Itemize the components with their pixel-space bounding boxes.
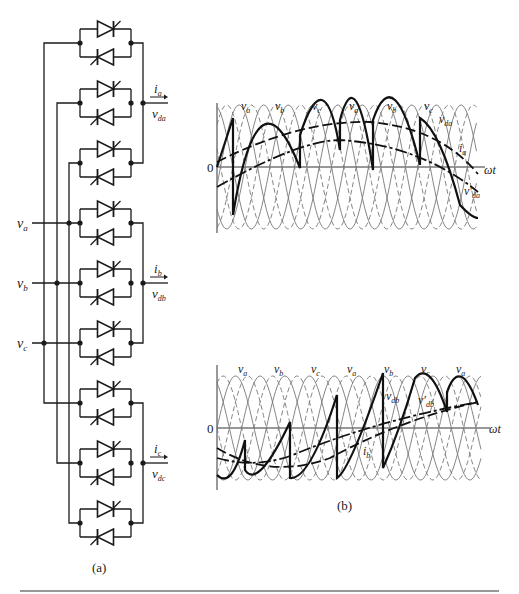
thyristor-gate bbox=[114, 261, 121, 268]
junction-dot bbox=[140, 460, 145, 465]
junction-dot bbox=[41, 340, 46, 345]
junction-dot bbox=[66, 220, 71, 225]
zero-label-top: 0 bbox=[207, 160, 214, 175]
phase-label: vc bbox=[424, 99, 433, 115]
thyristor-triangle-icon bbox=[98, 109, 114, 125]
thyristor-gate bbox=[91, 118, 98, 125]
phase-label: va bbox=[347, 362, 356, 378]
thyristor-gate bbox=[91, 358, 98, 365]
thyristor-triangle-icon bbox=[98, 441, 114, 457]
thyristor-triangle-icon bbox=[98, 289, 114, 305]
thyristor-triangle-icon bbox=[98, 409, 114, 425]
thyristor-gate bbox=[114, 81, 121, 88]
output-current-label-ic: ic bbox=[154, 441, 162, 458]
fundamental-vdb-prime bbox=[217, 402, 478, 463]
thyristor-pair bbox=[77, 261, 133, 305]
thyristor-triangle-icon bbox=[98, 201, 114, 217]
ib-label: ib bbox=[363, 444, 370, 460]
thyristor-gate bbox=[114, 321, 121, 328]
junction-dot bbox=[128, 280, 133, 285]
thyristor-gate bbox=[114, 141, 121, 148]
thyristor-gate bbox=[91, 178, 98, 185]
phase-label: vb bbox=[275, 99, 284, 115]
thyristor-gate bbox=[114, 441, 121, 448]
output-bus bbox=[131, 403, 168, 523]
junction-dot bbox=[128, 460, 133, 465]
arrowhead-icon bbox=[164, 275, 168, 280]
phase-label: vc bbox=[311, 362, 320, 378]
thyristor-triangle-icon bbox=[98, 141, 114, 157]
thyristor-pair bbox=[77, 381, 133, 425]
thyristor-triangle-icon bbox=[98, 529, 114, 545]
phase-label: vb bbox=[384, 362, 393, 378]
thyristor-gate bbox=[114, 201, 121, 208]
thyristor-triangle-icon bbox=[98, 469, 114, 485]
input-buses bbox=[32, 43, 80, 523]
junction-dot bbox=[140, 100, 145, 105]
input-label-va: va bbox=[17, 216, 28, 233]
axis-label-wt-bottom: ωt bbox=[489, 422, 501, 436]
ia-label: ia bbox=[459, 141, 466, 157]
input-label-vb: vb bbox=[17, 276, 28, 293]
thyristor-gate bbox=[114, 381, 121, 388]
phase-label: vc bbox=[421, 362, 430, 378]
thyristor-triangle-icon bbox=[98, 261, 114, 277]
thyristor-triangle-icon bbox=[98, 169, 114, 185]
thyristor-triangle-icon bbox=[98, 229, 114, 245]
thyristor-triangle-icon bbox=[98, 501, 114, 517]
axis-label-wt-top: ωt bbox=[484, 163, 496, 177]
output-bus bbox=[131, 43, 168, 163]
output-voltage-label-vdc: vdc bbox=[152, 466, 166, 483]
thyristor-pair bbox=[77, 141, 133, 185]
thyristor-triangle-icon bbox=[98, 49, 114, 65]
phase-label: vc bbox=[312, 99, 321, 115]
thyristor-gate bbox=[114, 21, 121, 28]
phase-label: va bbox=[238, 362, 247, 378]
phase-label: va bbox=[456, 362, 465, 378]
phase-label: va bbox=[241, 99, 250, 115]
junction-dot bbox=[140, 280, 145, 285]
thyristor-gate bbox=[91, 298, 98, 305]
cycloconverter-figure: va vb vc ia vda ib vdb ic vdc (a) 0 ωt v… bbox=[0, 0, 519, 594]
thyristor-gate bbox=[91, 478, 98, 485]
waveform-output-a bbox=[217, 97, 485, 233]
waveform-output-b bbox=[217, 365, 490, 490]
output-bus bbox=[131, 223, 168, 343]
thyristor-pair bbox=[77, 501, 133, 545]
thyristor-pair bbox=[77, 201, 133, 245]
phase-label: vb bbox=[274, 362, 283, 378]
thyristor-triangle-icon bbox=[98, 321, 114, 337]
output-voltage-vda bbox=[233, 100, 340, 215]
zero-label-bottom: 0 bbox=[207, 421, 214, 436]
arrowhead-icon bbox=[164, 95, 168, 100]
output-voltage-label-vdb: vdb bbox=[152, 286, 166, 303]
junction-dot bbox=[54, 280, 59, 285]
thyristor-gate bbox=[91, 238, 98, 245]
vda-label: vda bbox=[439, 112, 452, 128]
output-current-label-ib: ib bbox=[154, 261, 162, 278]
thyristor-pair bbox=[77, 81, 133, 125]
vdb-prime-label: v′db bbox=[418, 393, 434, 409]
output-voltage-label-vda: vda bbox=[152, 106, 166, 123]
thyristor-pair bbox=[77, 321, 133, 365]
output-current-label-ia: ia bbox=[154, 81, 162, 98]
arrowhead-icon bbox=[164, 455, 168, 460]
thyristor-triangle-icon bbox=[98, 21, 114, 37]
thyristor-gate bbox=[91, 418, 98, 425]
junction-dot bbox=[128, 100, 133, 105]
thyristor-triangle-icon bbox=[98, 349, 114, 365]
thyristor-gate bbox=[91, 538, 98, 545]
caption-a: (a) bbox=[92, 560, 106, 575]
cycloconverter-circuit bbox=[32, 21, 168, 545]
thyristor-gate bbox=[91, 58, 98, 65]
thyristor-pair bbox=[77, 441, 133, 485]
caption-b: (b) bbox=[337, 498, 352, 513]
thyristor-triangle-icon bbox=[98, 381, 114, 397]
input-label-vc: vc bbox=[17, 336, 27, 353]
thyristor-triangle-icon bbox=[98, 81, 114, 97]
thyristor-gate bbox=[114, 501, 121, 508]
thyristor-pair bbox=[77, 21, 133, 65]
